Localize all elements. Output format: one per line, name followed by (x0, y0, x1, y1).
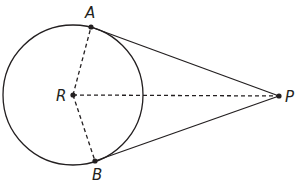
radius-RA (73, 27, 91, 95)
point-A (88, 24, 93, 29)
tangent-segment-BP (95, 96, 279, 161)
label-P: P (285, 88, 295, 106)
label-R: R (56, 87, 66, 105)
label-B: B (92, 166, 102, 182)
point-B (92, 158, 97, 163)
point-R (70, 92, 75, 97)
tangent-segment-AP (91, 27, 279, 96)
radius-RB (73, 95, 95, 161)
label-A: A (84, 4, 95, 22)
segment-RP (73, 95, 279, 96)
point-P (276, 93, 281, 98)
tangent-circle-diagram: A B R P (0, 0, 297, 182)
